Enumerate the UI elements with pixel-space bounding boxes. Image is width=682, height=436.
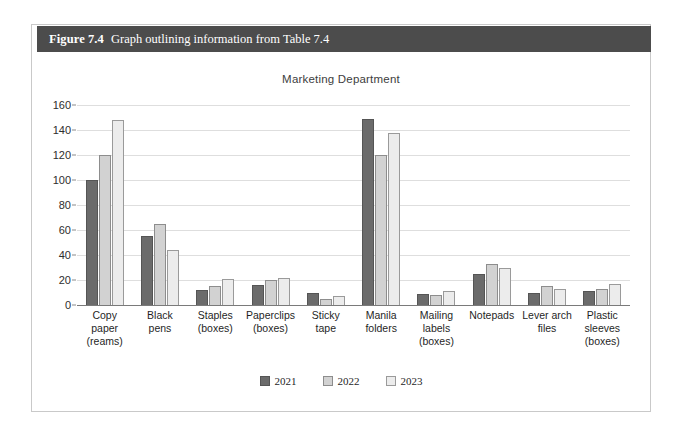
bar-2021[interactable]	[252, 285, 264, 305]
bar-group	[243, 105, 298, 305]
bar-group-bars	[575, 105, 630, 305]
bar-2023[interactable]	[499, 268, 511, 306]
bar-group	[188, 105, 243, 305]
legend-swatch	[386, 376, 396, 386]
y-tick-label: 100	[53, 174, 71, 186]
legend-label: 2022	[338, 375, 360, 387]
x-axis-labels: Copypaper(reams)BlackpensStaples(boxes)P…	[77, 309, 630, 348]
bar-group	[519, 105, 574, 305]
bar-2021[interactable]	[583, 291, 595, 305]
bar-group-bars	[243, 105, 298, 305]
y-tick-mark	[72, 130, 76, 131]
gridline	[77, 305, 630, 306]
chart-title: Marketing Department	[32, 73, 650, 85]
figure-caption: Graph outlining information from Table 7…	[111, 32, 329, 47]
bar-2023[interactable]	[333, 296, 345, 305]
y-tick-mark	[72, 255, 76, 256]
y-tick-mark	[72, 155, 76, 156]
legend-swatch	[260, 376, 270, 386]
bar-group	[409, 105, 464, 305]
bar-2023[interactable]	[222, 279, 234, 305]
bar-2023[interactable]	[443, 291, 455, 305]
y-tick-label: 140	[53, 124, 71, 136]
bar-2021[interactable]	[307, 293, 319, 306]
bar-2022[interactable]	[596, 289, 608, 305]
bar-group	[464, 105, 519, 305]
y-tick-label: 40	[59, 249, 71, 261]
bar-group	[132, 105, 187, 305]
plot-area: 020406080100120140160	[77, 105, 630, 305]
x-axis-label: Lever archfiles	[519, 309, 574, 348]
bar-2022[interactable]	[541, 286, 553, 305]
bar-2021[interactable]	[86, 180, 98, 305]
bar-2023[interactable]	[112, 120, 124, 305]
bar-2022[interactable]	[430, 295, 442, 305]
legend-item-2023[interactable]: 2023	[386, 375, 423, 387]
bar-2021[interactable]	[196, 290, 208, 305]
bar-group-bars	[409, 105, 464, 305]
y-tick-label: 60	[59, 224, 71, 236]
y-tick-label: 80	[59, 199, 71, 211]
bar-2023[interactable]	[388, 133, 400, 306]
x-axis-label: Plasticsleeves(boxes)	[575, 309, 630, 348]
bar-2023[interactable]	[554, 289, 566, 305]
bar-group	[298, 105, 353, 305]
bar-2022[interactable]	[486, 264, 498, 305]
bar-group-bars	[353, 105, 408, 305]
x-axis-label: Copypaper(reams)	[77, 309, 132, 348]
bar-2023[interactable]	[167, 250, 179, 305]
legend-label: 2023	[401, 375, 423, 387]
bar-group-bars	[464, 105, 519, 305]
x-axis-label: Manilafolders	[353, 309, 408, 348]
y-tick-label: 20	[59, 274, 71, 286]
bar-group-bars	[298, 105, 353, 305]
x-axis-label: Blackpens	[132, 309, 187, 348]
figure-number: Figure 7.4	[49, 32, 104, 47]
y-tick-mark	[72, 205, 76, 206]
y-tick-label: 120	[53, 149, 71, 161]
y-tick-label: 0	[65, 299, 71, 311]
x-axis-label: Staples(boxes)	[188, 309, 243, 348]
x-axis-label: Stickytape	[298, 309, 353, 348]
figure-header-bar: Figure 7.4 Graph outlining information f…	[37, 26, 651, 52]
bar-2022[interactable]	[320, 299, 332, 305]
bar-2021[interactable]	[528, 293, 540, 306]
y-tick-label: 160	[53, 99, 71, 111]
y-tick-mark	[72, 180, 76, 181]
legend-swatch	[323, 376, 333, 386]
x-axis-label: Paperclips(boxes)	[243, 309, 298, 348]
bar-group	[575, 105, 630, 305]
bar-2021[interactable]	[473, 274, 485, 305]
chart-legend: 202120222023	[32, 375, 650, 387]
bar-group	[77, 105, 132, 305]
bar-2022[interactable]	[375, 155, 387, 305]
bar-2022[interactable]	[99, 155, 111, 305]
bar-group-bars	[132, 105, 187, 305]
x-axis-label: Mailinglabels(boxes)	[409, 309, 464, 348]
bar-2021[interactable]	[417, 294, 429, 305]
legend-item-2021[interactable]: 2021	[260, 375, 297, 387]
bar-2023[interactable]	[609, 284, 621, 305]
y-tick-mark	[72, 280, 76, 281]
bar-2022[interactable]	[154, 224, 166, 305]
chart-container: Marketing Department 0204060801001201401…	[32, 53, 650, 411]
y-tick-mark	[72, 105, 76, 106]
bar-2023[interactable]	[278, 278, 290, 306]
bar-groups	[77, 105, 630, 305]
bar-2021[interactable]	[141, 236, 153, 305]
x-axis-label: Notepads	[464, 309, 519, 348]
y-tick-mark	[72, 230, 76, 231]
bar-group	[353, 105, 408, 305]
bar-group-bars	[188, 105, 243, 305]
bar-2022[interactable]	[209, 286, 221, 305]
bar-2021[interactable]	[362, 119, 374, 305]
bar-group-bars	[77, 105, 132, 305]
legend-label: 2021	[275, 375, 297, 387]
bar-2022[interactable]	[265, 280, 277, 305]
legend-item-2022[interactable]: 2022	[323, 375, 360, 387]
y-tick-mark	[72, 305, 76, 306]
bar-group-bars	[519, 105, 574, 305]
